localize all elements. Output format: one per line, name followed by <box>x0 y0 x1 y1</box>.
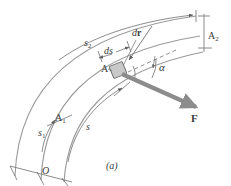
dimension-tick-s-end <box>114 82 130 96</box>
ds-left-tick <box>98 51 102 62</box>
ds-right-tick <box>127 41 131 52</box>
force-vector-F <box>122 74 196 107</box>
label-dr: dr <box>132 28 141 38</box>
label-A2: A2 <box>208 31 219 43</box>
diagram-canvas <box>0 0 231 186</box>
dimension-arrow-s <box>68 88 122 162</box>
figure-work-along-path: s2 ds dr A A2 A1 s1 s α F O (a) <box>0 0 231 186</box>
dimension-arrow-top-to-A2 <box>59 15 193 60</box>
label-s2: s2 <box>84 38 91 50</box>
label-s1: s1 <box>38 128 45 140</box>
end-cap-inner <box>62 178 68 186</box>
path-center-curve <box>41 36 200 180</box>
label-ds: ds <box>104 46 113 56</box>
dr-leader-line <box>122 40 136 68</box>
label-s: s <box>86 122 90 132</box>
label-A1: A1 <box>55 113 66 125</box>
label-F: F <box>191 113 198 124</box>
figure-caption: (a) <box>106 161 118 171</box>
ds-dimension-arrow-right <box>116 47 129 52</box>
label-A: A <box>101 64 108 74</box>
label-alpha: α <box>159 62 165 73</box>
path-inner-curve <box>64 52 203 182</box>
label-O: O <box>42 166 49 176</box>
